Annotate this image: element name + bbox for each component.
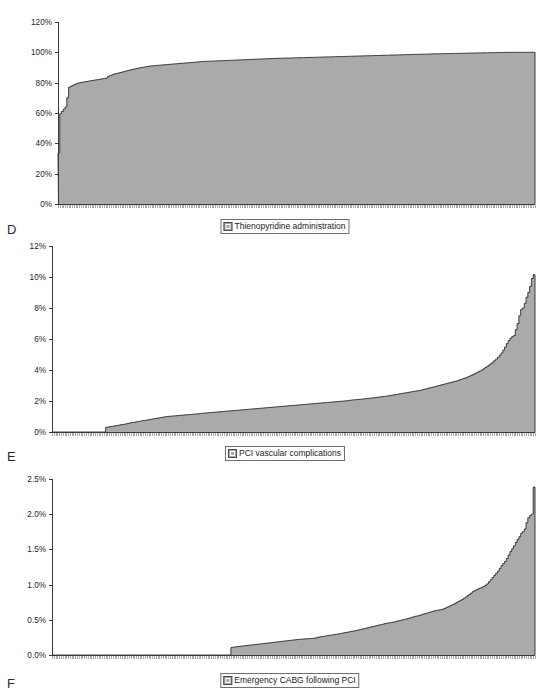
y-axis-tick-label: 2.5% [27, 475, 46, 484]
legend-emergency-cabg: Emergency CABG following PCI [220, 673, 359, 688]
y-axis-tick-label: 1.0% [27, 581, 46, 590]
y-axis-tick-label: 8% [34, 304, 46, 313]
panel-letter-f: F [7, 676, 15, 691]
y-axis-tick-label: 40% [36, 139, 52, 148]
y-axis-tick-label: 1.5% [27, 545, 46, 554]
chart-panel-f: 0.0%0.5%1.0%1.5%2.0%2.5% [0, 473, 550, 698]
legend-thienopyridine: Thienopyridine administration [220, 219, 349, 234]
legend-label: Emergency CABG following PCI [234, 675, 355, 686]
legend-label: Thienopyridine administration [234, 221, 345, 232]
chart-svg-thienopyridine: 0%20%40%60%80%100%120% [0, 0, 550, 240]
legend-pci-vascular: PCI vascular complications [225, 446, 345, 461]
y-axis-tick-label: 10% [30, 273, 46, 282]
series-swatch-icon [223, 676, 232, 685]
y-axis-tick-label: 60% [36, 109, 52, 118]
series-swatch-icon [223, 222, 232, 231]
y-axis-tick-label: 100% [31, 48, 52, 57]
series-area-path [52, 275, 535, 433]
y-axis-tick-label: 0.0% [27, 651, 46, 660]
panel-letter-e: E [7, 449, 16, 464]
chart-panel-e: 0%2%4%6%8%10%12% [0, 240, 550, 473]
y-axis-tick-label: 20% [36, 170, 52, 179]
y-axis-tick-label: 6% [34, 335, 46, 344]
y-axis-tick-label: 80% [36, 79, 52, 88]
y-axis-tick-label: 4% [34, 366, 46, 375]
y-axis-tick-label: 0.5% [27, 616, 46, 625]
series-area-path [52, 487, 535, 655]
y-axis-tick-label: 0% [34, 428, 46, 437]
chart-svg-emergency-cabg: 0.0%0.5%1.0%1.5%2.0%2.5% [0, 473, 550, 698]
y-axis-tick-label: 2.0% [27, 510, 46, 519]
chart-svg-pci-vascular: 0%2%4%6%8%10%12% [0, 240, 550, 473]
series-swatch-icon [228, 449, 237, 458]
legend-label: PCI vascular complications [239, 448, 341, 459]
series-area-path [58, 52, 535, 204]
y-axis-tick-label: 2% [34, 397, 46, 406]
panel-letter-d: D [7, 222, 17, 237]
y-axis-tick-label: 12% [30, 242, 46, 251]
y-axis-tick-label: 120% [31, 18, 52, 27]
y-axis-tick-label: 0% [40, 200, 52, 209]
chart-panel-d: 0%20%40%60%80%100%120% [0, 0, 550, 240]
